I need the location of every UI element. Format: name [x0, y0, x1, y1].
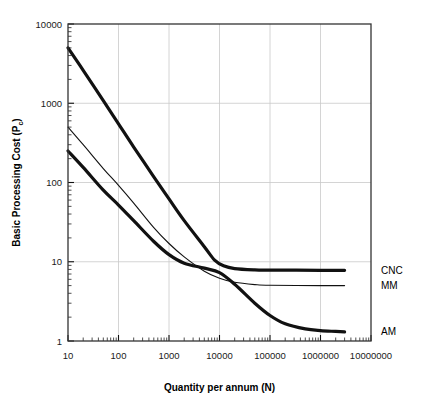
series-label-am: AM — [381, 326, 396, 337]
y-tick-label: 1 — [57, 336, 62, 347]
series-label-mm: MM — [381, 280, 398, 291]
y-tick-label: 10000 — [36, 19, 62, 30]
y-axis-title: Basic Processing Cost (Pc) — [11, 118, 24, 246]
y-axis-title-tail: ) — [11, 118, 22, 121]
chart-container: CNCMMAM101001000100001000001000000100000… — [0, 0, 444, 411]
x-tick-label: 1000000 — [302, 350, 339, 361]
x-tick-labels: 10100100010000100000100000010000000 — [63, 350, 392, 361]
basic-processing-cost-chart: CNCMMAM101001000100001000001000000100000… — [0, 0, 444, 411]
x-tick-label: 10 — [63, 350, 74, 361]
x-tick-label: 1000 — [158, 350, 179, 361]
y-tick-label: 1000 — [41, 98, 62, 109]
y-tick-label: 100 — [46, 177, 62, 188]
x-tick-label: 10000000 — [350, 350, 392, 361]
y-tick-label: 10 — [51, 256, 62, 267]
x-tick-label: 100 — [111, 350, 127, 361]
series-label-cnc: CNC — [381, 265, 403, 276]
x-tick-label: 10000 — [206, 350, 232, 361]
series-labels: CNCMMAM — [381, 265, 403, 338]
y-tick-labels: 110100100010000 — [36, 19, 62, 347]
y-axis-title-main: Basic Processing Cost (P — [11, 125, 22, 246]
x-axis-title: Quantity per annum (N) — [164, 382, 275, 393]
x-tick-label: 100000 — [254, 350, 286, 361]
